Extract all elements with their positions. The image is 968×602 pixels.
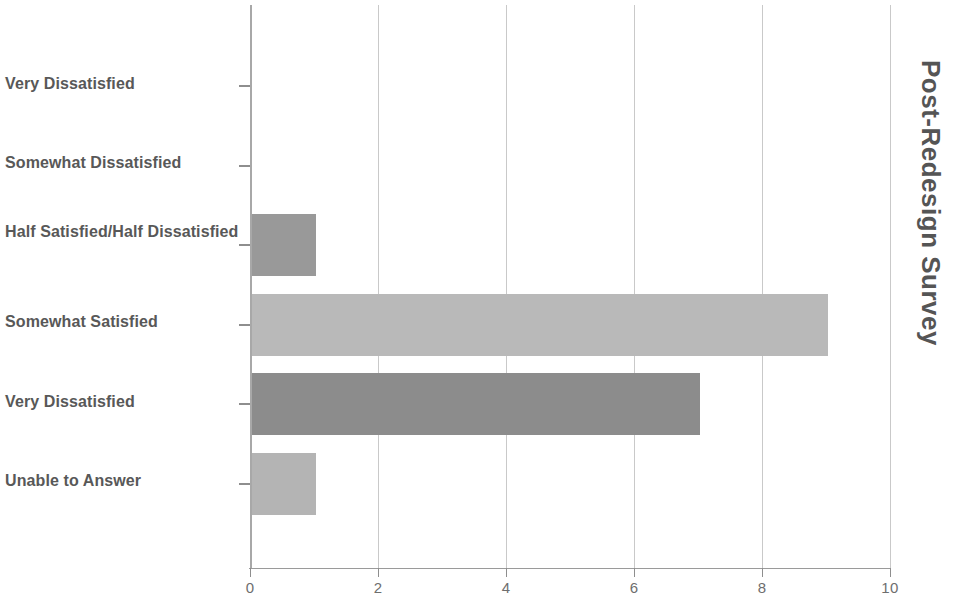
chart-container: Post-Redesign Survey Very DissatisfiedSo… bbox=[0, 0, 968, 602]
y-axis-tick bbox=[239, 165, 250, 167]
y-axis-tick bbox=[239, 403, 250, 405]
x-axis-tick-label: 0 bbox=[230, 579, 270, 596]
gridline-8 bbox=[762, 5, 763, 568]
bar bbox=[252, 294, 828, 356]
x-axis-tick bbox=[506, 568, 507, 577]
x-axis-tick-label: 6 bbox=[614, 579, 654, 596]
x-axis-tick-label: 10 bbox=[870, 579, 910, 596]
x-axis-line bbox=[249, 568, 891, 569]
x-axis-tick-label: 2 bbox=[358, 579, 398, 596]
category-label: Unable to Answer bbox=[5, 470, 241, 491]
x-axis-tick bbox=[890, 568, 891, 577]
chart-title: Post-Redesign Survey bbox=[915, 60, 946, 104]
gridline-2 bbox=[378, 5, 379, 568]
gridline-10 bbox=[890, 5, 891, 568]
category-label: Somewhat Dissatisfied bbox=[5, 152, 241, 173]
y-axis-tick bbox=[239, 85, 250, 87]
plot-area bbox=[250, 5, 890, 568]
bar bbox=[252, 214, 316, 276]
category-label: Very Dissatisfied bbox=[5, 391, 241, 412]
y-axis-tick bbox=[239, 324, 250, 326]
category-label: Somewhat Satisfied bbox=[5, 311, 241, 332]
x-axis-tick bbox=[250, 568, 251, 577]
gridline-4 bbox=[506, 5, 507, 568]
y-axis-tick bbox=[239, 244, 250, 246]
x-axis-tick bbox=[762, 568, 763, 577]
y-axis-tick bbox=[239, 483, 250, 485]
bar bbox=[252, 453, 316, 515]
bar bbox=[252, 373, 700, 435]
x-axis-tick bbox=[378, 568, 379, 577]
x-axis-tick-label: 4 bbox=[486, 579, 526, 596]
x-axis-tick bbox=[634, 568, 635, 577]
gridline-6 bbox=[634, 5, 635, 568]
x-axis-tick-label: 8 bbox=[742, 579, 782, 596]
category-label: Half Satisfied/Half Dissatisfied bbox=[5, 221, 241, 242]
category-label: Very Dissatisfied bbox=[5, 73, 241, 94]
